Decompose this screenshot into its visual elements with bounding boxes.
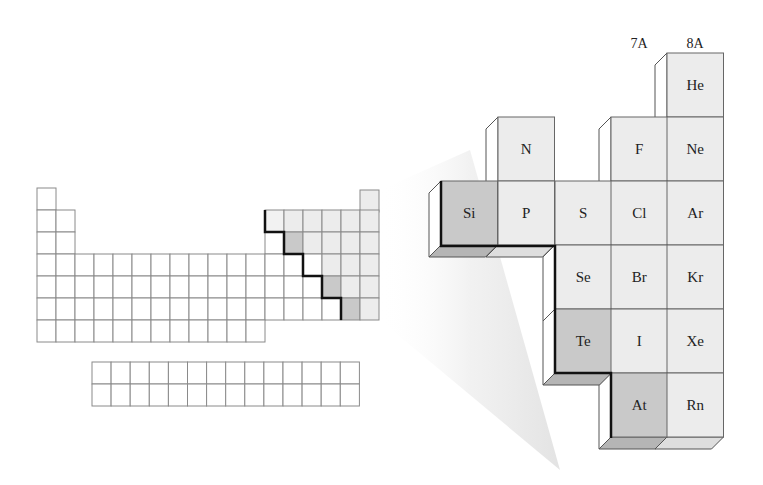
element-symbol: Ne — [687, 141, 705, 157]
group-label-7a: 7A — [630, 36, 648, 51]
small-table-cell — [246, 298, 265, 320]
f-block-cell — [111, 362, 130, 384]
small-table-cell — [246, 254, 265, 276]
f-block-cell — [321, 362, 340, 384]
small-table-cell — [227, 276, 246, 298]
small-table-cell — [56, 232, 75, 254]
small-table-cell — [189, 298, 208, 320]
f-block-cell — [245, 362, 264, 384]
small-table-cell — [37, 254, 56, 276]
small-table-cell — [189, 276, 208, 298]
f-block-cell — [264, 362, 283, 384]
small-table-cell — [322, 254, 341, 276]
small-table-cell — [303, 298, 322, 320]
element-cell-si: Si — [441, 181, 498, 245]
small-table-cell — [75, 320, 94, 342]
element-cell-cl: Cl — [611, 181, 668, 245]
small-table-cell — [341, 298, 360, 320]
small-table-cell — [265, 276, 284, 298]
element-cell-he: He — [667, 53, 724, 117]
f-block-cell — [340, 362, 359, 384]
small-table-cell — [132, 254, 151, 276]
f-block-cell — [92, 384, 111, 406]
small-table-cell — [94, 320, 113, 342]
cell-side-face — [429, 181, 441, 257]
small-table-cell — [189, 320, 208, 342]
f-block-cell — [264, 384, 283, 406]
element-symbol: Xe — [687, 333, 705, 349]
element-symbol: Te — [576, 333, 591, 349]
small-table-cell — [56, 254, 75, 276]
small-table-cell — [37, 232, 56, 254]
small-table-cell — [284, 232, 303, 254]
small-table-cell — [37, 276, 56, 298]
f-block-cell — [226, 384, 245, 406]
element-symbol: I — [637, 333, 642, 349]
small-table-cell — [341, 210, 360, 232]
small-table-cell — [303, 254, 322, 276]
element-cell-rn: Rn — [667, 373, 724, 437]
f-block-cell — [92, 362, 111, 384]
cell-bottom-face — [543, 373, 612, 385]
small-table-cell — [37, 210, 56, 232]
element-symbol: At — [632, 397, 648, 413]
small-table-cell — [341, 276, 360, 298]
small-table-cell — [75, 276, 94, 298]
small-table-cell — [322, 298, 341, 320]
small-table-cell — [132, 320, 151, 342]
small-table-cell — [56, 276, 75, 298]
small-table-cell — [246, 320, 265, 342]
small-table-cell — [56, 298, 75, 320]
f-block-cell — [168, 384, 187, 406]
small-table-cell — [170, 320, 189, 342]
small-table-cell — [360, 232, 379, 254]
element-symbol: Cl — [632, 205, 646, 221]
f-block-cell — [321, 384, 340, 406]
element-cell-s: S — [555, 181, 612, 245]
small-table-cell — [75, 254, 94, 276]
cell-side-face — [543, 309, 555, 385]
f-block-cell — [245, 384, 264, 406]
element-cell-f: F — [611, 117, 668, 181]
f-block-cell — [130, 362, 149, 384]
small-table-cell — [208, 298, 227, 320]
small-table-cell — [170, 298, 189, 320]
small-table-cell — [303, 232, 322, 254]
element-symbol: N — [521, 141, 532, 157]
f-block-cell — [111, 384, 130, 406]
periodic-table-diagram: HeNFNeSiPSClArSeBrKrTeIXeAtRn 7A 8A — [0, 0, 763, 485]
element-symbol: Rn — [686, 397, 704, 413]
small-table-cell — [56, 210, 75, 232]
small-table-cell — [341, 232, 360, 254]
element-symbol: Kr — [687, 269, 703, 285]
element-cell-ar: Ar — [667, 181, 724, 245]
small-table-cell — [284, 254, 303, 276]
small-table-cell — [208, 320, 227, 342]
small-table-cell — [360, 210, 379, 232]
f-block-cell — [149, 384, 168, 406]
small-table-cell — [303, 210, 322, 232]
small-table-cell — [322, 276, 341, 298]
f-block-cell — [340, 384, 359, 406]
group-label-8a: 8A — [686, 36, 704, 51]
small-table-cell — [246, 276, 265, 298]
small-table-cell — [151, 254, 170, 276]
f-block-cell — [283, 362, 302, 384]
small-table-cell — [360, 276, 379, 298]
small-table-cell — [360, 254, 379, 276]
element-symbol: Si — [463, 205, 476, 221]
small-table-cell — [208, 276, 227, 298]
element-cell-i: I — [611, 309, 668, 373]
cell-side-face — [543, 245, 555, 321]
element-symbol: Br — [632, 269, 647, 285]
f-block-cell — [207, 384, 226, 406]
element-symbol: He — [687, 77, 705, 93]
small-table-cell — [170, 254, 189, 276]
element-cell-at: At — [611, 373, 668, 437]
small-table-cell — [227, 254, 246, 276]
small-table-cell — [132, 298, 151, 320]
f-block-cell — [168, 362, 187, 384]
small-table-cell — [37, 320, 56, 342]
element-symbol: F — [635, 141, 643, 157]
element-cell-se: Se — [555, 245, 612, 309]
